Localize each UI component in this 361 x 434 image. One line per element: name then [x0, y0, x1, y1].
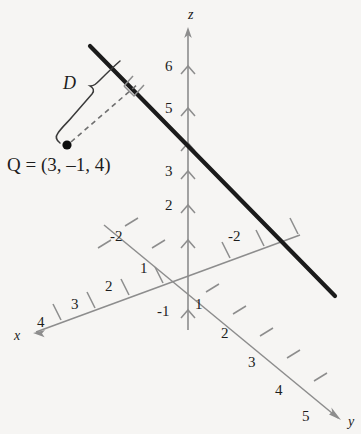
- x-tick-label-4: 4: [37, 315, 45, 330]
- x-tick-label-2: 2: [105, 279, 113, 294]
- x-axis-ticks: [53, 218, 298, 320]
- z-tick-label-3: 3: [165, 164, 173, 179]
- y-tick-label-2: 2: [221, 326, 229, 341]
- y-tick-label-5: 5: [302, 409, 310, 424]
- y-tick-label-4: 4: [275, 383, 283, 398]
- coordinate-diagram: [0, 0, 361, 434]
- distance-label: D: [63, 74, 76, 92]
- z-tick-label-5: 5: [165, 101, 173, 116]
- perpendicular-dashed-segment: [71, 84, 138, 142]
- point-q-label: Q = (3, –1, 4): [7, 155, 111, 174]
- y-tick-label-neg2: -2: [110, 229, 123, 244]
- z-tick-label-6: 6: [165, 59, 173, 74]
- x-tick-label-3: 3: [71, 297, 79, 312]
- z-axis: [181, 27, 195, 330]
- y-axis-ticks: [98, 218, 327, 381]
- z-axis-label: z: [188, 8, 193, 22]
- y-tick-label-1: 1: [195, 297, 203, 312]
- x-tick-label-neg2: -2: [228, 229, 241, 244]
- point-q-marker: [62, 140, 71, 149]
- y-axis: [98, 218, 341, 420]
- z-tick-label-neg1: -1: [157, 304, 170, 319]
- y-axis-arrow-icon: [329, 408, 341, 420]
- x-tick-label-1: 1: [140, 261, 148, 276]
- y-axis-label: y: [348, 415, 354, 429]
- y-tick-label-3: 3: [248, 355, 256, 370]
- x-axis-label: x: [14, 329, 20, 343]
- x-axis: [33, 218, 300, 337]
- z-tick-label-2: 2: [165, 198, 173, 213]
